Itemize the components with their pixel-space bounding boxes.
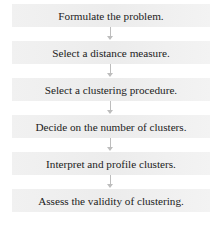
clustering-process-flowchart: Formulate the problem. Select a distance…: [0, 0, 219, 227]
step-formulate-problem: Formulate the problem.: [12, 4, 210, 27]
step-interpret-profile-clusters: Interpret and profile clusters.: [12, 152, 210, 175]
step-label: Interpret and profile clusters.: [46, 158, 176, 170]
arrow-down-icon: [109, 64, 111, 78]
step-select-distance-measure: Select a distance measure.: [12, 41, 210, 64]
arrow-down-icon: [109, 175, 111, 189]
step-label: Assess the validity of clustering.: [38, 195, 184, 207]
step-decide-number-of-clusters: Decide on the number of clusters.: [12, 115, 210, 138]
arrow-down-icon: [109, 27, 111, 41]
arrow-down-icon: [109, 101, 111, 115]
step-label: Formulate the problem.: [58, 10, 163, 22]
step-assess-validity: Assess the validity of clustering.: [12, 189, 210, 212]
step-label: Select a distance measure.: [52, 47, 169, 59]
step-select-clustering-procedure: Select a clustering procedure.: [12, 78, 210, 101]
step-label: Decide on the number of clusters.: [36, 121, 187, 133]
arrow-down-icon: [109, 138, 111, 152]
step-label: Select a clustering procedure.: [45, 84, 177, 96]
